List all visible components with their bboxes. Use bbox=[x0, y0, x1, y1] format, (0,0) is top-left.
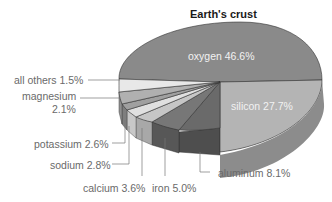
label-iron: iron 5.0% bbox=[152, 182, 196, 194]
label-oxygen: oxygen 46.6% bbox=[188, 50, 255, 62]
chart-title: Earth's crust bbox=[190, 8, 257, 20]
label-all-others: all others 1.5% bbox=[14, 74, 83, 86]
label-calcium: calcium 3.6% bbox=[83, 182, 145, 194]
label-magnesium-value: 2.1% bbox=[52, 103, 76, 115]
label-sodium: sodium 2.8% bbox=[50, 159, 111, 171]
label-magnesium-name: magnesium bbox=[22, 90, 76, 102]
label-aluminum: aluminum 8.1% bbox=[218, 167, 290, 179]
label-silicon: silicon 27.7% bbox=[231, 100, 293, 112]
label-potassium: potassium 2.6% bbox=[34, 138, 109, 150]
